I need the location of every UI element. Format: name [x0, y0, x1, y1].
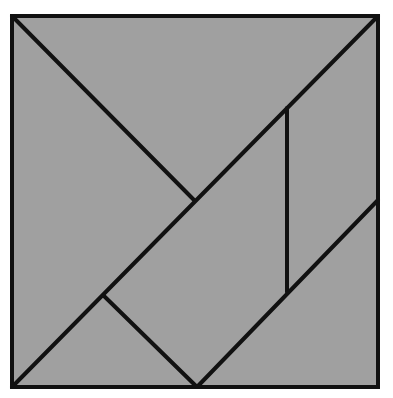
tangram-diagram: [0, 0, 393, 398]
